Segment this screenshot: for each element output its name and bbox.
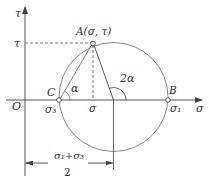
alpha-arc — [65, 92, 70, 101]
point-c-marker — [57, 98, 62, 103]
sigma3-label: σ₃ — [45, 103, 56, 115]
sigma1-label: σ₁ — [170, 102, 181, 114]
sigma-foot-label: σ — [89, 102, 97, 114]
dimension-denominator: 2 — [64, 166, 71, 178]
mohr-circle-figure: τ τ O σ A(σ, τ) C σ₃ σ B σ₁ α 2α σ₁+σ₃ 2 — [0, 0, 209, 185]
origin-label: O — [12, 100, 21, 113]
dimension-numerator: σ₁+σ₃ — [54, 150, 84, 161]
alpha-label: α — [71, 82, 79, 95]
tau-axis-label: τ — [15, 7, 22, 20]
tau-tick-label: τ — [14, 37, 21, 50]
point-b-label: B — [168, 84, 177, 96]
sigma-axis-label: σ — [196, 102, 204, 115]
mohr-circle-diagram: τ τ O σ A(σ, τ) C σ₃ σ B σ₁ α 2α σ₁+σ₃ 2 — [0, 0, 209, 185]
point-a-label: A(σ, τ) — [75, 25, 111, 37]
point-c-label: C — [47, 86, 56, 99]
point-a-marker — [91, 41, 96, 46]
radius-a-center — [94, 45, 114, 100]
two-alpha-label: 2α — [119, 72, 135, 85]
